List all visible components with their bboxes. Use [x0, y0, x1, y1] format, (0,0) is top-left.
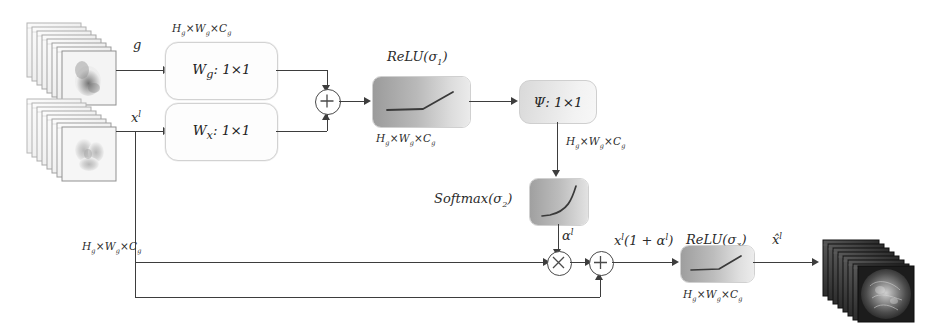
- arrow-label-x: xl: [131, 110, 141, 124]
- line-relu3-to-output: [753, 262, 815, 263]
- conv-block-wx[interactable]: Wx: 1×1: [165, 103, 278, 161]
- conv-block-psi[interactable]: Ψ: 1×1: [519, 80, 597, 124]
- line-skip-to-mul: [135, 262, 546, 263]
- conv-block-wg-label: Wg: 1×1: [192, 61, 250, 81]
- arrowhead-psi-to-softmax: [552, 170, 560, 177]
- line-softmax-down: [558, 224, 559, 250]
- activation-block-relu3[interactable]: [680, 245, 755, 283]
- arrow-label-g: g: [133, 38, 141, 51]
- dim-label-skip: Hg×Wg×Cg: [82, 241, 142, 255]
- line-g-to-wg: [116, 70, 164, 71]
- input-stack-g: [26, 22, 124, 108]
- operator-multiply: [547, 251, 572, 276]
- line-psi-down: [557, 122, 558, 171]
- arrowhead-relu1-to-psi: [511, 97, 518, 105]
- arrow-label-alpha: αl: [562, 228, 574, 242]
- dim-label-relu1: Hg×Wg×Cg: [376, 133, 436, 147]
- conv-block-wx-label: Wx: 1×1: [193, 122, 251, 142]
- arrowhead-add-to-relu3: [672, 258, 679, 266]
- output-stack: [822, 234, 926, 326]
- arrowhead-relu3-to-output: [812, 258, 819, 266]
- line-wg-out: [276, 70, 327, 71]
- activation-label-relu1: ReLU(σ1): [387, 50, 448, 67]
- line-wx-out: [276, 131, 327, 132]
- input-stack-x: [26, 98, 124, 184]
- activation-label-softmax: Softmax(σ2): [434, 192, 512, 209]
- operator-add-bottom: [589, 251, 614, 276]
- line-relu1-to-psi: [469, 101, 513, 102]
- line-skip-branch-vertical: [135, 131, 136, 297]
- conv-block-psi-label: Ψ: 1×1: [533, 94, 582, 110]
- activation-block-relu1[interactable]: [372, 76, 471, 128]
- line-sum-to-relu1: [339, 101, 366, 102]
- operator-add-top: [315, 89, 341, 115]
- line-x-to-wx: [116, 131, 164, 132]
- dim-label-top: Hg×Wg×Cg: [172, 23, 232, 37]
- line-add-to-relu3: [612, 262, 675, 263]
- attention-gate-diagram: g xl Hg×Wg×Cg Wg: 1×1 Wx: 1×1: [0, 0, 940, 331]
- arrowhead-sum-to-relu1: [364, 97, 371, 105]
- line-wg-down: [327, 70, 328, 86]
- line-skip-to-add: [135, 297, 600, 298]
- arrow-label-output: x̂l: [772, 232, 782, 246]
- dim-label-psi: Hg×Wg×Cg: [566, 136, 626, 150]
- arrow-label-weighted: xl(1 + αl): [614, 233, 673, 247]
- activation-block-softmax[interactable]: [529, 178, 589, 226]
- conv-block-wg[interactable]: Wg: 1×1: [165, 42, 278, 100]
- dim-label-relu3: Hg×Wg×Cg: [683, 289, 743, 303]
